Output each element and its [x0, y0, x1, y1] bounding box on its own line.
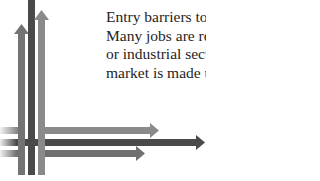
text-line-2: Many jobs are re [106, 27, 206, 46]
text-line-4: market is made u [106, 64, 206, 83]
text-line-3: or industrial sect [106, 45, 206, 64]
body-text: Entry barriers to Many jobs are re or in… [106, 8, 206, 82]
text-line-1: Entry barriers to [106, 8, 206, 27]
